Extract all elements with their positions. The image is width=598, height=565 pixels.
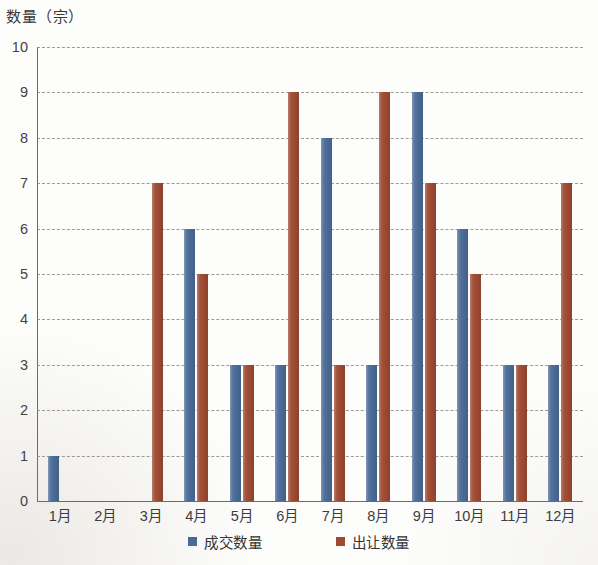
y-axis-tick-label: 10 xyxy=(12,39,28,55)
bar-6月-成交数量 xyxy=(275,365,286,501)
y-axis-tick-label: 8 xyxy=(20,130,28,146)
bar-11月-出让数量 xyxy=(516,365,527,501)
y-axis-tick-label: 5 xyxy=(20,266,28,282)
bar-7月-出让数量 xyxy=(334,365,345,501)
x-axis-tick-label-9月: 9月 xyxy=(413,504,435,525)
legend-swatch-red xyxy=(336,537,345,546)
x-axis-ticks: 1月2月3月4月5月6月7月8月9月10月11月12月 xyxy=(37,504,583,528)
bar-8月-成交数量 xyxy=(366,365,377,501)
bar-11月-成交数量 xyxy=(503,365,514,501)
bar-10月-成交数量 xyxy=(457,229,468,501)
bar-4月-出让数量 xyxy=(197,274,208,501)
bar-9月-出让数量 xyxy=(425,183,436,501)
bar-12月-成交数量 xyxy=(548,365,559,501)
bar-4月-成交数量 xyxy=(184,229,195,501)
bar-series-container xyxy=(37,47,583,501)
chart-legend: 成交数量出让数量 xyxy=(0,531,598,552)
y-axis-tick-label: 2 xyxy=(20,402,28,418)
x-axis-tick-label-8月: 8月 xyxy=(367,504,389,525)
x-axis-tick-label-6月: 6月 xyxy=(276,504,298,525)
legend-label: 成交数量 xyxy=(204,531,262,552)
bar-5月-出让数量 xyxy=(243,365,254,501)
x-axis-tick-label-4月: 4月 xyxy=(185,504,207,525)
legend-label: 出让数量 xyxy=(352,531,410,552)
bar-1月-成交数量 xyxy=(48,456,59,501)
bar-5月-成交数量 xyxy=(230,365,241,501)
y-axis-tick-label: 0 xyxy=(20,493,28,509)
chart-page: 数量（宗） 012345678910 1月2月3月4月5月6月7月8月9月10月… xyxy=(0,0,598,565)
y-axis-tick-label: 9 xyxy=(20,84,28,100)
x-axis-tick-label-3月: 3月 xyxy=(140,504,162,525)
bar-3月-出让数量 xyxy=(152,183,163,501)
legend-item-出让数量[interactable]: 出让数量 xyxy=(336,531,410,552)
plot-area: 012345678910 xyxy=(37,47,583,501)
y-axis-title: 数量（宗） xyxy=(6,5,84,26)
x-axis-tick-label-7月: 7月 xyxy=(322,504,344,525)
y-axis-tick-label: 4 xyxy=(20,311,28,327)
bar-6月-出让数量 xyxy=(288,92,299,501)
bar-7月-成交数量 xyxy=(321,138,332,501)
bar-9月-成交数量 xyxy=(412,92,423,501)
bar-8月-出让数量 xyxy=(379,92,390,501)
bar-12月-出让数量 xyxy=(561,183,572,501)
bar-10月-出让数量 xyxy=(470,274,481,501)
y-axis-tick-label: 3 xyxy=(20,357,28,373)
x-axis-tick-label-12月: 12月 xyxy=(545,504,575,525)
y-axis-tick-label: 1 xyxy=(20,448,28,464)
x-axis-tick-label-2月: 2月 xyxy=(94,504,116,525)
x-axis-tick-label-11月: 11月 xyxy=(500,504,529,525)
x-axis-tick-label-5月: 5月 xyxy=(231,504,253,525)
x-axis-tick-label-10月: 10月 xyxy=(454,504,484,525)
y-axis-tick-label: 7 xyxy=(20,175,28,191)
y-axis-tick-label: 6 xyxy=(20,221,28,237)
x-axis-tick-label-1月: 1月 xyxy=(49,504,71,525)
legend-item-成交数量[interactable]: 成交数量 xyxy=(188,531,262,552)
legend-swatch-blue xyxy=(188,537,197,546)
x-axis-baseline xyxy=(37,501,583,502)
